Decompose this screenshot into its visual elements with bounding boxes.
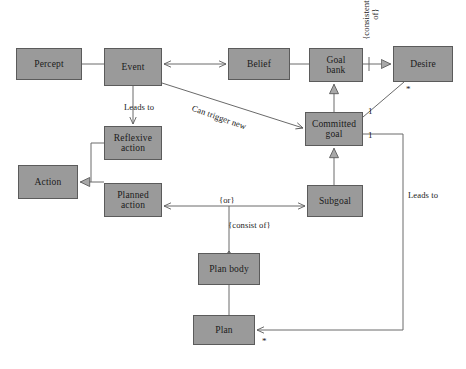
node-goal-bank-label: Goal bank <box>326 55 345 76</box>
node-plan-label: Plan <box>215 325 233 335</box>
node-committed-goal[interactable]: Committed goal <box>305 112 363 146</box>
node-event-label: Event <box>122 62 145 72</box>
node-action[interactable]: Action <box>18 165 78 199</box>
edge-label-consist-of: {consist of} <box>228 220 271 230</box>
node-plan[interactable]: Plan <box>193 315 255 345</box>
edge-label-or: {or} <box>219 195 235 205</box>
node-reflexive-action[interactable]: Reflexive action <box>104 126 162 160</box>
node-belief[interactable]: Belief <box>228 48 290 80</box>
node-desire-label: Desire <box>410 59 436 69</box>
node-planned-action-label: Planned action <box>117 190 149 211</box>
node-committed-goal-label: Committed goal <box>312 119 356 140</box>
edge-label-consistent-set-of: {consistent set of} <box>362 0 380 44</box>
node-reflexive-action-label: Reflexive action <box>114 133 152 154</box>
node-percept-label: Percept <box>34 59 64 69</box>
node-action-label: Action <box>35 177 62 187</box>
node-goal-bank[interactable]: Goal bank <box>309 48 363 82</box>
edge-reflexive-planned-action <box>91 143 104 182</box>
edge-label-leads-to-plan: Leads to <box>408 190 438 200</box>
node-subgoal-label: Subgoal <box>319 196 351 206</box>
node-planned-action[interactable]: Planned action <box>104 183 162 217</box>
uml-class-diagram: Percept Event Belief Goal bank Desire Co… <box>0 0 466 369</box>
node-plan-body[interactable]: Plan body <box>198 253 260 285</box>
node-percept[interactable]: Percept <box>16 48 82 80</box>
multiplicity-committed-lower: 1 <box>368 130 373 140</box>
edge-committed-plan <box>257 134 403 330</box>
multiplicity-plan-star: * <box>262 336 267 346</box>
multiplicity-committed-upper: 1 <box>368 106 373 116</box>
node-subgoal[interactable]: Subgoal <box>307 185 363 217</box>
node-event[interactable]: Event <box>104 48 162 86</box>
multiplicity-desire-star: * <box>406 84 411 94</box>
edge-label-leads-to-reflexive: Leads to <box>124 102 154 112</box>
node-plan-body-label: Plan body <box>209 264 249 274</box>
node-desire[interactable]: Desire <box>393 46 453 82</box>
node-belief-label: Belief <box>247 59 271 69</box>
